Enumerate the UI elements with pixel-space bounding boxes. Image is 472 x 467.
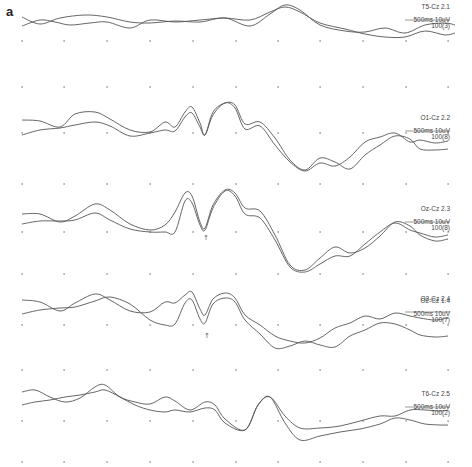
channel-name: O1-Cz 2.2	[414, 114, 451, 121]
waveform-trace	[22, 7, 455, 38]
channel-name: T5-Cz 2.1	[414, 3, 451, 10]
channel-name: Oz-Cz 2.3	[414, 205, 451, 212]
channel-label: O2-Cz 2.4O2-Cz 1.4500ms 10uV100(7)	[414, 295, 451, 323]
waveform-trace	[22, 189, 448, 270]
average-count-label: 100(8)	[414, 224, 451, 231]
channel-label: Oz-Cz 2.3500ms 10uV100(8)	[414, 205, 451, 231]
waveform-trace	[22, 390, 448, 441]
average-count-label: 100(3)	[414, 22, 451, 29]
waveform-trace	[22, 102, 448, 170]
channel-name-overlap: O2-Cz 1.4	[414, 297, 451, 304]
channel-t6-cz	[22, 384, 448, 440]
waveform-trace	[22, 384, 448, 430]
average-count-label: 100(8)	[414, 133, 451, 140]
waveform-trace	[22, 291, 448, 343]
waveform-trace	[22, 103, 448, 171]
channel-label: T6-Cz 2.5500ms 10uV100(2)	[414, 390, 451, 416]
channel-t5-cz	[22, 5, 455, 38]
grid-dots	[22, 40, 449, 463]
channel-label: O1-Cz 2.2500ms 10uV100(8)	[414, 114, 451, 140]
channel-oz-cz	[22, 189, 448, 272]
vep-waveform-figure: a ↑↑ T5-Cz 2.1500ms 10uV100(3)O1-Cz 2.25…	[0, 0, 472, 467]
waveform-plot: ↑↑	[0, 0, 472, 467]
channel-label: T5-Cz 2.1500ms 10uV100(3)	[414, 3, 451, 29]
channel-name: T6-Cz 2.5	[414, 390, 451, 397]
channel-o2-cz	[22, 291, 448, 348]
average-count-label: 100(2)	[414, 409, 451, 416]
waveform-trace	[22, 5, 455, 33]
average-count-label: 100(7)	[414, 316, 451, 323]
peak-marker-icon: ↑	[204, 332, 210, 340]
channel-o1-cz	[22, 102, 448, 171]
waveform-trace	[22, 297, 448, 349]
peak-marker-icon: ↑	[203, 234, 209, 242]
